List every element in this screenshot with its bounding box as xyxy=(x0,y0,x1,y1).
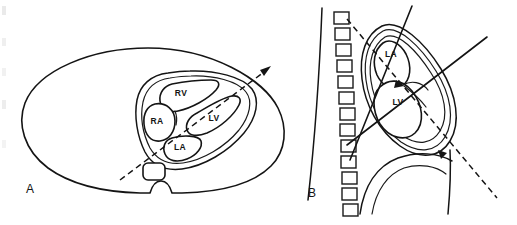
vertebra-box xyxy=(337,60,352,72)
vertebra-box xyxy=(343,204,358,216)
scan-edge-artifacts xyxy=(2,6,6,148)
vertebra-box xyxy=(338,76,353,88)
panel-b: B LA LV xyxy=(308,6,497,216)
panel-label-b: B xyxy=(308,186,316,200)
chamber-label-la-b: LA xyxy=(385,49,397,59)
chest-wall-line xyxy=(308,8,322,200)
vertebra-box xyxy=(340,108,355,120)
vertebra-box xyxy=(341,156,356,168)
vertebra-box xyxy=(335,28,350,40)
chamber-label-rv: RV xyxy=(175,88,187,98)
vertebra-box xyxy=(342,172,357,184)
diaphragm-curve-inner xyxy=(372,166,446,214)
chamber-label-la: LA xyxy=(174,142,186,152)
panel-a: A RV RA LV LA xyxy=(22,48,284,196)
chamber-lv-b xyxy=(374,81,421,138)
anatomical-diagram: A RV RA LV LA xyxy=(0,0,517,225)
descending-aorta xyxy=(143,163,165,180)
scan-plane-arrowhead-a xyxy=(260,66,271,76)
figure-container: A RV RA LV LA xyxy=(0,0,517,225)
panel-label-a: A xyxy=(26,182,34,196)
vertebra-box xyxy=(342,188,357,200)
vertebra-box xyxy=(334,12,349,24)
chamber-label-lv-b: LV xyxy=(393,97,404,107)
vertebra-box xyxy=(340,124,355,136)
chamber-label-lv: LV xyxy=(209,113,220,123)
chamber-label-ra: RA xyxy=(151,116,164,126)
vertebral-column xyxy=(334,12,358,216)
vertebra-box xyxy=(336,44,351,56)
vertebra-box xyxy=(339,92,354,104)
